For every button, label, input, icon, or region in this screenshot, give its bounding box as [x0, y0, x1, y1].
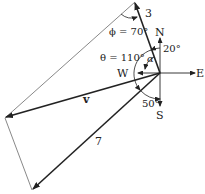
- alpha-label: α: [147, 53, 154, 64]
- north-20-arc: [151, 48, 160, 50]
- vector-diagram: 3 7 v N S E W ϕ = 70° θ = 110° α 20° 50°: [0, 0, 205, 194]
- north-offset-label: 20°: [163, 43, 181, 54]
- theta-label: θ = 110°: [100, 52, 145, 63]
- north-label: N: [155, 26, 165, 39]
- vector-3-label: 3: [145, 7, 152, 20]
- south-label: S: [156, 109, 164, 122]
- phi-arc: [121, 14, 137, 18]
- south-offset-label: 50°: [142, 98, 160, 109]
- east-label: E: [196, 67, 204, 80]
- vector-v-label: v: [82, 93, 90, 106]
- construction-line-left: [5, 118, 32, 190]
- phi-label: ϕ = 70°: [109, 26, 148, 37]
- vector-7-label: 7: [95, 135, 102, 148]
- west-label: W: [117, 67, 129, 80]
